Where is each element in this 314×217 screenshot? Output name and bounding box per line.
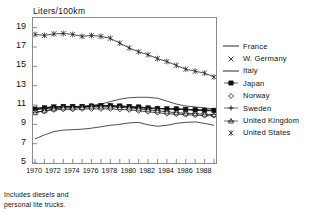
legend-marker-icon: [221, 102, 241, 114]
legend-marker-icon: [221, 77, 241, 89]
legend-marker-icon: [221, 115, 241, 127]
legend-item-united-kingdom[interactable]: United Kingdom: [221, 114, 313, 126]
series-united-states: [33, 31, 216, 80]
legend-item-japan[interactable]: Japan: [221, 77, 313, 89]
legend-marker-icon: [221, 53, 241, 65]
y-tick-label: 9: [4, 117, 26, 127]
legend-item-italy[interactable]: Italy: [221, 65, 313, 77]
legend-marker-icon: [221, 127, 241, 139]
footnote-line-2: personal lite trucks.: [4, 200, 69, 210]
y-tick-label: 7: [4, 137, 26, 147]
y-tick-label: 19: [4, 21, 26, 31]
legend-item-united-states[interactable]: United States: [221, 127, 313, 139]
chart-legend: FranceW. GermanyItalyJapanNorwaySwedenUn…: [221, 40, 313, 139]
legend-marker-icon: [221, 90, 241, 102]
legend-marker-icon: [221, 65, 241, 77]
y-tick-label: 11: [4, 98, 26, 108]
legend-item-sweden[interactable]: Sweden: [221, 102, 313, 114]
plot-svg: [33, 18, 216, 163]
axis-title: Liters/100km: [33, 6, 85, 16]
legend-item-france[interactable]: France: [221, 40, 313, 52]
y-tick-label: 15: [4, 59, 26, 69]
legend-label: Norway: [241, 91, 270, 100]
series-france: [35, 122, 214, 139]
legend-item-norway[interactable]: Norway: [221, 90, 313, 102]
legend-label: Italy: [241, 66, 258, 75]
chart-footnote: Includes diesels and personal lite truck…: [4, 190, 69, 209]
legend-item-w-germany[interactable]: W. Germany: [221, 52, 313, 64]
plot-area: [32, 17, 217, 164]
legend-label: Sweden: [241, 104, 271, 113]
footnote-line-1: Includes diesels and: [4, 190, 69, 200]
y-tick-label: 13: [4, 79, 26, 89]
x-tick-label: 1988: [192, 166, 216, 175]
legend-label: United Kingdom: [241, 116, 299, 125]
chart-page: Liters/100km 5791113151719 1970197219741…: [0, 0, 314, 217]
legend-label: Japan: [241, 79, 264, 88]
legend-label: United States: [241, 128, 291, 137]
y-tick-label: 5: [4, 156, 26, 166]
legend-marker-icon: [221, 40, 241, 52]
legend-label: W. Germany: [241, 54, 287, 63]
legend-label: France: [241, 42, 268, 51]
y-tick-label: 17: [4, 40, 26, 50]
